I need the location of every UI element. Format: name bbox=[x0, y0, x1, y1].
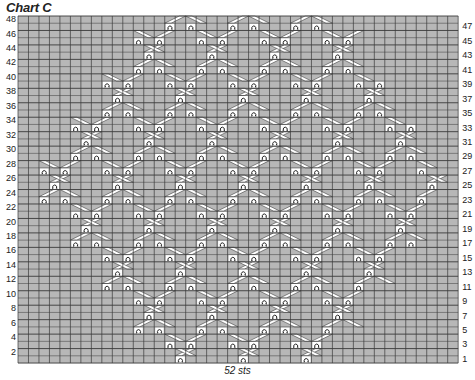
purl-cell bbox=[333, 53, 341, 59]
purl-cell bbox=[218, 38, 226, 44]
purl-cell bbox=[354, 82, 362, 88]
purl-cell bbox=[302, 183, 310, 189]
purl-cell bbox=[407, 154, 415, 160]
purl-cell bbox=[197, 327, 205, 333]
row-label-right: 21 bbox=[462, 210, 472, 219]
purl-cell bbox=[166, 110, 174, 116]
purl-cell bbox=[291, 82, 299, 88]
purl-cell bbox=[71, 125, 79, 131]
row-label-left: 38 bbox=[2, 87, 16, 96]
purl-cell bbox=[124, 255, 132, 261]
purl-cell bbox=[113, 270, 121, 276]
row-label-right: 39 bbox=[462, 80, 472, 89]
purl-cell bbox=[166, 284, 174, 290]
purl-cell bbox=[281, 38, 289, 44]
purl-cell bbox=[166, 24, 174, 30]
purl-cell bbox=[281, 154, 289, 160]
purl-cell bbox=[354, 255, 362, 261]
purl-cell bbox=[375, 255, 383, 261]
row-label-left: 36 bbox=[2, 102, 16, 111]
row-label-right: 41 bbox=[462, 66, 472, 75]
purl-cell bbox=[239, 96, 247, 102]
purl-cell bbox=[250, 342, 258, 348]
row-label-right: 11 bbox=[462, 283, 471, 292]
purl-cell bbox=[187, 197, 195, 203]
purl-cell bbox=[40, 197, 48, 203]
purl-cell bbox=[281, 327, 289, 333]
purl-cell bbox=[312, 342, 320, 348]
purl-cell bbox=[323, 67, 331, 73]
knitting-chart bbox=[0, 0, 475, 380]
purl-cell bbox=[218, 212, 226, 218]
row-label-left: 28 bbox=[2, 160, 16, 169]
purl-cell bbox=[92, 241, 100, 247]
purl-cell bbox=[260, 154, 268, 160]
purl-cell bbox=[218, 125, 226, 131]
row-label-left: 40 bbox=[2, 73, 16, 82]
purl-cell bbox=[187, 110, 195, 116]
purl-cell bbox=[354, 197, 362, 203]
purl-cell bbox=[260, 38, 268, 44]
purl-cell bbox=[218, 154, 226, 160]
purl-cell bbox=[386, 125, 394, 131]
purl-cell bbox=[229, 284, 237, 290]
row-label-right: 45 bbox=[462, 37, 472, 46]
purl-cell bbox=[124, 110, 132, 116]
purl-cell bbox=[145, 313, 153, 319]
purl-cell bbox=[428, 183, 436, 189]
purl-cell bbox=[155, 154, 163, 160]
purl-cell bbox=[375, 82, 383, 88]
purl-cell bbox=[166, 82, 174, 88]
purl-cell bbox=[124, 197, 132, 203]
purl-cell bbox=[260, 125, 268, 131]
purl-cell bbox=[344, 67, 352, 73]
purl-cell bbox=[250, 255, 258, 261]
purl-cell bbox=[239, 183, 247, 189]
purl-cell bbox=[113, 183, 121, 189]
purl-cell bbox=[229, 168, 237, 174]
purl-cell bbox=[250, 82, 258, 88]
purl-cell bbox=[176, 96, 184, 102]
purl-cell bbox=[155, 241, 163, 247]
purl-cell bbox=[312, 168, 320, 174]
row-label-right: 47 bbox=[462, 22, 472, 31]
row-label-left: 18 bbox=[2, 232, 16, 241]
stitch-count-caption: 52 sts bbox=[0, 365, 475, 376]
row-label-right: 19 bbox=[462, 225, 472, 234]
purl-cell bbox=[176, 270, 184, 276]
purl-cell bbox=[229, 197, 237, 203]
purl-cell bbox=[344, 125, 352, 131]
purl-cell bbox=[375, 110, 383, 116]
purl-cell bbox=[291, 168, 299, 174]
purl-cell bbox=[386, 154, 394, 160]
row-label-right: 1 bbox=[462, 355, 467, 364]
purl-cell bbox=[208, 53, 216, 59]
purl-cell bbox=[344, 241, 352, 247]
row-label-right: 17 bbox=[462, 239, 472, 248]
row-label-left: 48 bbox=[2, 15, 16, 24]
row-label-right: 15 bbox=[462, 254, 472, 263]
row-label-left: 32 bbox=[2, 131, 16, 140]
purl-cell bbox=[344, 38, 352, 44]
purl-cell bbox=[239, 356, 247, 362]
purl-cell bbox=[218, 67, 226, 73]
row-label-left: 6 bbox=[2, 319, 16, 328]
purl-cell bbox=[166, 197, 174, 203]
row-label-left: 30 bbox=[2, 145, 16, 154]
purl-cell bbox=[103, 110, 111, 116]
row-label-left: 44 bbox=[2, 44, 16, 53]
purl-cell bbox=[134, 298, 142, 304]
row-label-left: 46 bbox=[2, 30, 16, 39]
row-label-left: 12 bbox=[2, 275, 16, 284]
purl-cell bbox=[407, 241, 415, 247]
purl-cell bbox=[197, 154, 205, 160]
purl-cell bbox=[407, 212, 415, 218]
purl-cell bbox=[134, 154, 142, 160]
purl-cell bbox=[271, 139, 279, 145]
purl-cell bbox=[302, 96, 310, 102]
row-label-right: 3 bbox=[462, 340, 467, 349]
purl-cell bbox=[312, 197, 320, 203]
purl-cell bbox=[134, 67, 142, 73]
purl-cell bbox=[260, 241, 268, 247]
purl-cell bbox=[333, 226, 341, 232]
